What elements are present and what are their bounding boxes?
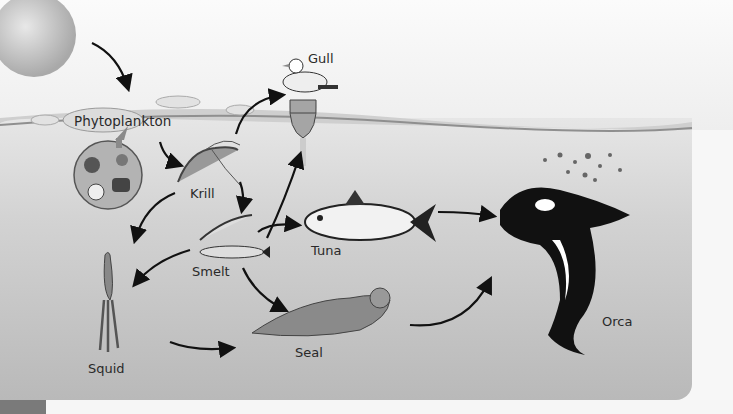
label-smelt: Smelt	[192, 264, 230, 279]
label-squid: Squid	[88, 361, 125, 376]
label-krill: Krill	[190, 186, 215, 201]
label-orca: Orca	[602, 314, 632, 329]
seal-icon	[252, 288, 390, 336]
food-web-diagram: Phytoplankton Krill Gull Smelt Tuna Squi…	[0, 0, 733, 414]
smelt-icon	[200, 215, 270, 258]
phytoplankton-icon	[74, 126, 142, 209]
label-tuna: Tuna	[311, 243, 341, 258]
squid-icon	[100, 253, 118, 353]
krill-icon	[178, 141, 240, 185]
label-phytoplankton: Phytoplankton	[74, 113, 171, 129]
label-gull: Gull	[308, 51, 334, 66]
sun-icon	[0, 0, 76, 77]
tuna-icon	[305, 190, 436, 242]
diagram-artwork	[0, 0, 733, 414]
buoy-icon	[290, 100, 316, 166]
label-seal: Seal	[295, 345, 323, 360]
